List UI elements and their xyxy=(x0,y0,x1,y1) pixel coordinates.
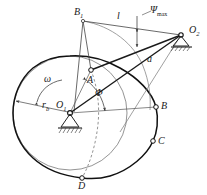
joint-c xyxy=(151,139,156,144)
label-point-b: B xyxy=(161,101,167,111)
label-base-radius: rb xyxy=(42,100,49,113)
label-phi: Φ xyxy=(95,88,103,98)
label-point-a: A xyxy=(87,75,93,85)
pivot-o2-hatching xyxy=(171,47,190,51)
radius-o1-b xyxy=(70,107,156,113)
pivot-o1-hatching xyxy=(59,128,82,133)
cam-profile xyxy=(13,56,157,179)
label-link-a: a xyxy=(147,54,152,64)
diagram-canvas xyxy=(0,0,207,195)
link-b1-o1 xyxy=(74,21,83,112)
label-link-l: l xyxy=(117,11,120,21)
link-b1-o2 xyxy=(83,21,181,35)
label-omega: ω xyxy=(44,74,51,84)
link-b1-a xyxy=(83,21,91,70)
joint-a xyxy=(89,68,94,73)
label-b1: B1 xyxy=(74,7,83,20)
link-a-o2 xyxy=(91,35,181,70)
cam-mechanism-figure: B1 l Ψmax O2 a A ω Φ rb O1 B C D xyxy=(0,0,207,195)
label-point-d: D xyxy=(78,181,85,191)
joint-b1 xyxy=(81,19,84,22)
joint-b xyxy=(154,105,159,110)
label-point-c: C xyxy=(158,136,165,146)
label-o1: O1 xyxy=(56,100,66,113)
label-o2: O2 xyxy=(189,25,199,38)
label-psi-max: Ψmax xyxy=(150,5,167,17)
